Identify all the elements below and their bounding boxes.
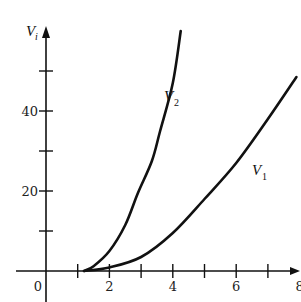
x-tick-label: 0 — [34, 279, 42, 294]
series-label-v2-sub: 2 — [174, 97, 179, 108]
y-axis-arrow-icon — [42, 26, 50, 38]
series-label-v1: V 1 — [252, 162, 267, 182]
x-tick-labels: 02468 — [34, 279, 301, 294]
series-line-v2 — [84, 31, 181, 271]
x-tick-label: 2 — [105, 279, 113, 294]
y-tick-label: 20 — [21, 184, 38, 199]
x-tick-label: 4 — [169, 279, 177, 294]
series — [84, 31, 296, 271]
x-axis-arrow-icon — [290, 267, 300, 275]
y-tick-label: 40 — [21, 104, 38, 119]
line-chart: 02468 2040 V i V 2 V 1 — [0, 0, 301, 302]
series-label-v1-sub: 1 — [262, 171, 267, 182]
x-tick-label: 6 — [232, 279, 240, 294]
y-axis-title-sub: i — [35, 31, 38, 42]
y-axis-title: V i — [26, 23, 38, 42]
y-tick-labels: 2040 — [21, 104, 38, 199]
x-tick-label: 8 — [295, 279, 301, 294]
